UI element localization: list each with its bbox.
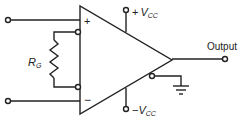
minus-input-label: − (84, 93, 91, 107)
output-terminal (223, 57, 228, 62)
rg-top-wire (54, 32, 76, 40)
minus-input-terminal (6, 99, 11, 104)
ground-wire (155, 76, 182, 86)
rg-top-terminal (76, 30, 81, 35)
output-label: Output (207, 41, 237, 52)
pos-supply-label: +VCC (132, 6, 159, 19)
rg-label-main: R (28, 56, 36, 68)
pos-supply-sign: + (132, 6, 138, 18)
rg-bottom-wire (54, 78, 76, 87)
neg-supply-sub: CC (146, 110, 157, 117)
neg-supply-terminal (124, 107, 129, 112)
op-amp-circuit-diagram: + − RG +VCC −VCC Output (0, 0, 243, 126)
pos-supply-sub: CC (148, 12, 159, 19)
pos-supply-terminal (124, 8, 129, 13)
neg-supply-label: −VCC (132, 104, 157, 117)
plus-input-label: + (84, 15, 90, 27)
rg-label: RG (28, 56, 42, 69)
plus-input-terminal (6, 18, 11, 23)
ground-icon (173, 86, 189, 94)
rg-bottom-terminal (76, 85, 81, 90)
rg-label-sub: G (36, 62, 42, 69)
rg-resistor-zigzag (50, 40, 58, 78)
reference-terminal (150, 74, 155, 79)
